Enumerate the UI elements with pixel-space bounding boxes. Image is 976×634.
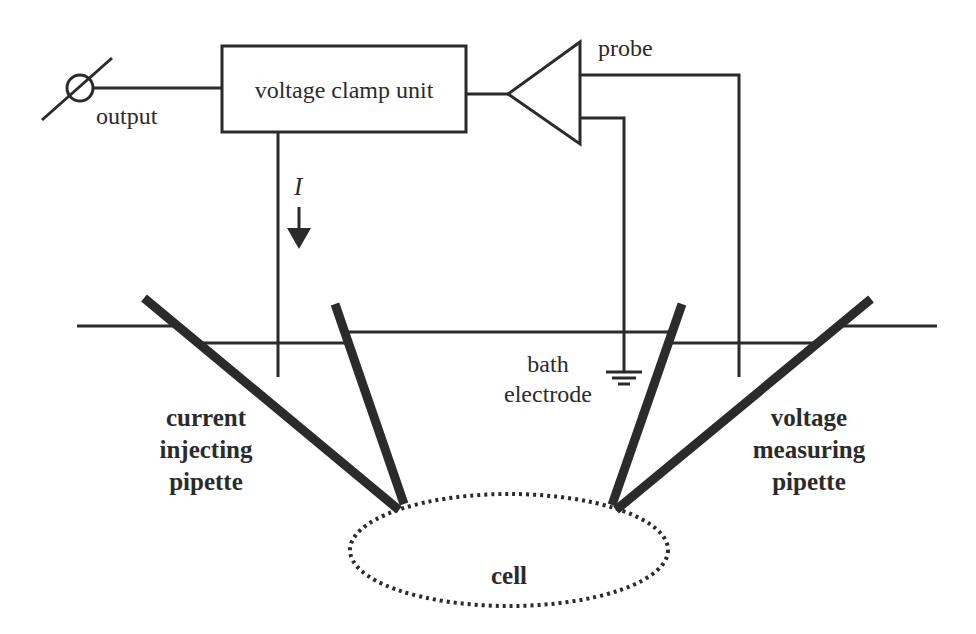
current-pipette-label-1: current: [166, 404, 247, 431]
current-pipette-label-2: injecting: [159, 436, 253, 463]
current-pipette-label-3: pipette: [169, 468, 243, 495]
output-label: output: [96, 103, 158, 129]
current-injecting-pipette: current injecting pipette: [144, 298, 404, 510]
clamp-unit-label: voltage clamp unit: [255, 77, 434, 103]
voltage-pipette-label-2: measuring: [753, 436, 866, 463]
amplifier-triangle-icon: [508, 42, 580, 144]
voltage-pipette-label-3: pipette: [772, 468, 846, 495]
probe-label: probe: [598, 35, 653, 61]
bath-label: bath: [527, 351, 568, 377]
voltage-clamp-unit: voltage clamp unit: [222, 46, 466, 132]
pipette-left-inner: [335, 304, 404, 504]
current-arrow-icon: [287, 228, 311, 249]
bath-surface: [77, 326, 937, 343]
current-label: I: [293, 173, 304, 200]
electrode-label: electrode: [504, 381, 592, 407]
current-path: I: [278, 132, 311, 377]
voltage-pipette-label-1: voltage: [771, 404, 847, 431]
cell-label: cell: [491, 562, 527, 589]
probe-amplifier: probe: [466, 35, 739, 377]
output-terminal: output: [42, 58, 222, 129]
bath-reference-wire: [580, 118, 624, 372]
bath-electrode: bath electrode: [504, 351, 642, 407]
voltage-clamp-diagram: output voltage clamp unit probe I bath e: [0, 0, 976, 634]
